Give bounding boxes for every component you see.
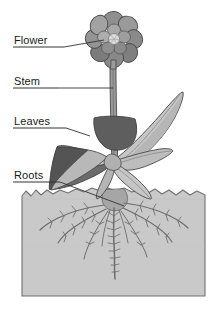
label-leaves-text: Leaves <box>14 115 50 127</box>
label-stem-text: Stem <box>14 75 40 87</box>
flower-stalk <box>110 60 116 69</box>
label-leaves[interactable]: Leaves <box>13 115 90 136</box>
label-roots-text: Roots <box>14 169 44 181</box>
leaf-back-dark <box>94 116 137 150</box>
label-leaves-leader <box>66 128 90 136</box>
plant-diagram-svg: Flower Stem Leaves Roots <box>0 0 223 310</box>
root-crown <box>102 189 128 211</box>
plant-diagram-canvas: Flower Stem Leaves Roots <box>0 0 223 310</box>
flower-group <box>83 10 145 71</box>
label-flower-text: Flower <box>14 34 48 46</box>
label-stem[interactable]: Stem <box>13 75 113 88</box>
